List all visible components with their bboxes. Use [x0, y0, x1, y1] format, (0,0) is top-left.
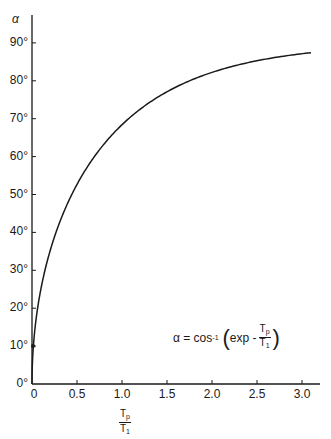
y-tick-label: 70° [0, 112, 28, 124]
x-tick-label: 0.5 [62, 388, 92, 400]
x-tick-label: 1.0 [107, 388, 137, 400]
x-tick-label: 2.5 [242, 388, 272, 400]
y-tick-label: 60° [0, 150, 28, 162]
y-tick-label: 30° [0, 263, 28, 275]
x-title-numerator: Tp [119, 408, 131, 423]
formula-annotation: α = cos-1 ( exp - Tp T1 ) [173, 324, 280, 351]
x-title-denominator: T1 [120, 423, 130, 437]
y-tick-label: 20° [0, 301, 28, 313]
chart-canvas [0, 0, 331, 439]
y-tick-label: 40° [0, 225, 28, 237]
y-tick-label: 10° [0, 339, 28, 351]
x-tick-label: 2.0 [197, 388, 227, 400]
x-axis-title: Tp T1 [119, 408, 131, 437]
data-point-marker [31, 344, 35, 348]
y-tick-label: 80° [0, 74, 28, 86]
x-tick-label: 0 [19, 388, 49, 400]
y-axis-title: α [12, 12, 19, 26]
formula-fraction: Tp T1 [259, 324, 271, 351]
x-tick-label: 1.5 [152, 388, 182, 400]
y-tick-label: 50° [0, 188, 28, 200]
y-tick-label: 90° [0, 36, 28, 48]
x-tick-label: 3.0 [287, 388, 317, 400]
